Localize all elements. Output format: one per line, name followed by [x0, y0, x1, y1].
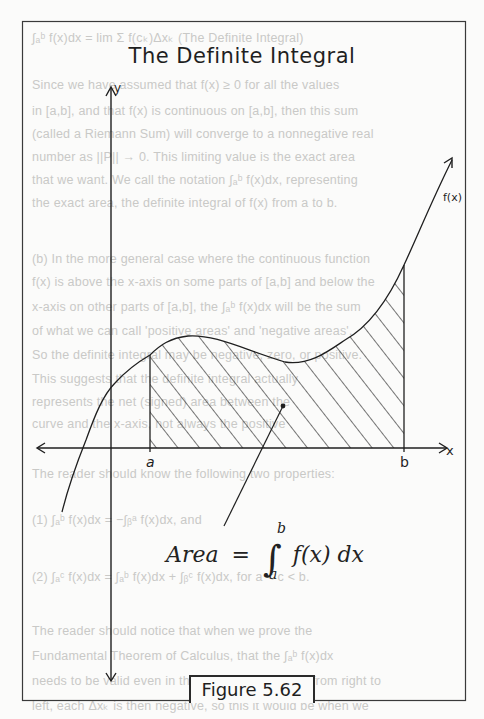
figure-caption: Figure 5.62 — [189, 675, 315, 703]
lower-limit: a — [269, 566, 277, 582]
shaded-area — [140, 250, 420, 460]
formula-equals: = — [232, 542, 250, 567]
x-axis-label: x — [446, 443, 454, 458]
a-label: a — [146, 454, 155, 470]
upper-limit: b — [277, 520, 286, 536]
y-axis-label: y — [114, 81, 121, 95]
b-label: b — [400, 454, 409, 470]
area-formula: Area = ∫ b a f(x) dx — [166, 538, 364, 579]
integrand: f(x) dx — [293, 542, 364, 567]
figure-graph: y x a b f(x) — [0, 0, 484, 719]
curve-label: f(x) — [443, 191, 462, 204]
formula-lhs: Area — [166, 542, 219, 567]
figure-title: The Definite Integral — [0, 44, 484, 68]
